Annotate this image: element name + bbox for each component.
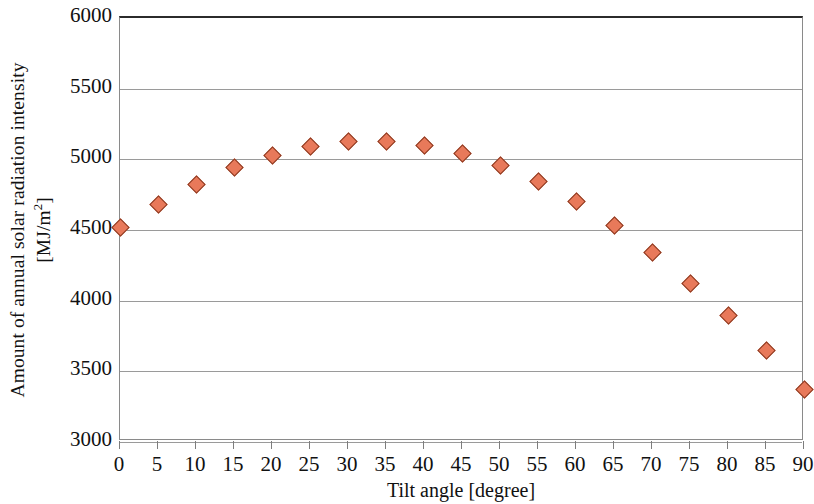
- data-point: [263, 146, 281, 164]
- x-axis-tick-label: 80: [717, 452, 738, 476]
- y-axis-title-line1: Amount of annual solar radiation intensi…: [5, 62, 31, 397]
- x-axis-tick-label: 0: [114, 452, 125, 476]
- x-axis-tick-mark: [385, 441, 386, 449]
- x-axis-tick-label: 5: [152, 452, 163, 476]
- x-axis-tick-mark: [461, 441, 462, 449]
- x-axis-tick-label: 75: [679, 452, 700, 476]
- data-point: [681, 274, 699, 292]
- data-point: [719, 306, 737, 324]
- x-axis-tick-mark: [233, 441, 234, 449]
- data-point: [605, 217, 623, 235]
- y-axis-tick-label: 3500: [44, 358, 112, 379]
- data-point: [643, 243, 661, 261]
- data-point: [187, 176, 205, 194]
- x-axis-tick-label: 50: [489, 452, 510, 476]
- data-point: [149, 195, 167, 213]
- data-point: [795, 381, 813, 399]
- x-axis-tick-label: 40: [413, 452, 434, 476]
- x-axis-tick-label: 65: [603, 452, 624, 476]
- x-axis-tick-label: 10: [185, 452, 206, 476]
- x-axis-tick-mark: [651, 441, 652, 449]
- x-axis-tick-mark: [157, 441, 158, 449]
- data-point: [453, 144, 471, 162]
- x-axis-tick-label: 45: [451, 452, 472, 476]
- y-axis-tick-labels: 3000350040004500500055006000: [44, 0, 112, 460]
- data-point: [377, 132, 395, 150]
- x-axis-tick-mark: [537, 441, 538, 449]
- x-axis-title: Tilt angle [degree]: [119, 478, 803, 502]
- x-axis-tick-mark: [689, 441, 690, 449]
- data-point: [301, 137, 319, 155]
- data-point: [225, 159, 243, 177]
- x-axis-tick-label: 30: [337, 452, 358, 476]
- x-axis-tick-mark: [195, 441, 196, 449]
- x-axis-tick-label: 25: [299, 452, 320, 476]
- x-axis-tick-mark: [119, 441, 120, 449]
- x-axis-tick-mark: [727, 441, 728, 449]
- x-axis-tick-mark: [613, 441, 614, 449]
- plot-area: [119, 16, 803, 440]
- data-point: [491, 156, 509, 174]
- x-axis-tick-label: 20: [261, 452, 282, 476]
- x-axis-tick-mark: [271, 441, 272, 449]
- y-axis-tick-label: 3000: [44, 429, 112, 450]
- x-axis-tick-mark: [309, 441, 310, 449]
- x-axis-tick-mark: [575, 441, 576, 449]
- y-axis-tick-label: 5500: [44, 76, 112, 97]
- y-axis-tick-label: 4500: [44, 217, 112, 238]
- x-axis-tick-label: 85: [755, 452, 776, 476]
- y-axis-tick-label: 5000: [44, 146, 112, 167]
- x-axis-tick-label: 90: [793, 452, 814, 476]
- data-point: [111, 218, 129, 236]
- x-axis-tick-labels: 051015202530354045505560657075808590: [119, 452, 803, 480]
- data-point: [339, 132, 357, 150]
- x-axis-tick-mark: [803, 441, 804, 449]
- data-point: [567, 192, 585, 210]
- x-axis-tick-label: 70: [641, 452, 662, 476]
- x-axis-tick-mark: [423, 441, 424, 449]
- x-axis-tick-mark: [765, 441, 766, 449]
- x-axis-tick-label: 60: [565, 452, 586, 476]
- x-axis-tick-marks: [119, 441, 803, 450]
- x-axis-tick-label: 35: [375, 452, 396, 476]
- x-axis-tick-mark: [347, 441, 348, 449]
- data-point: [415, 137, 433, 155]
- data-point: [529, 173, 547, 191]
- y-axis-tick-label: 4000: [44, 288, 112, 309]
- y-axis-tick-label: 6000: [44, 5, 112, 26]
- x-axis-tick-mark: [499, 441, 500, 449]
- data-point: [757, 341, 775, 359]
- x-axis-tick-label: 15: [223, 452, 244, 476]
- x-axis-tick-label: 55: [527, 452, 548, 476]
- data-series-points: [120, 18, 802, 439]
